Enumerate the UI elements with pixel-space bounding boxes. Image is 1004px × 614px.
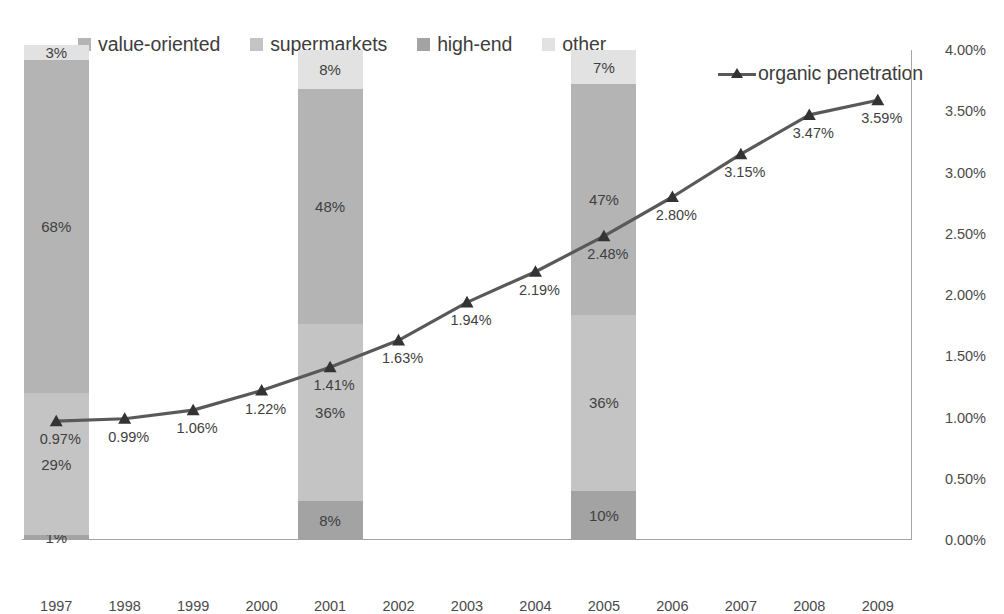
x-axis-tick-label: 1998 [109,598,141,614]
x-axis-tick-label: 2004 [519,598,551,614]
line-point-marker[interactable] [871,94,884,106]
line-point-label: 0.99% [108,429,149,445]
line-point-label: 3.15% [724,164,765,180]
x-axis-tick-label: 2003 [451,598,483,614]
line-point-marker[interactable] [734,148,747,160]
line-point-label: 1.94% [450,312,491,328]
y-axis-tick-label: 0.50% [945,471,986,487]
x-axis-tick-label: 2009 [862,598,894,614]
x-axis-tick-label: 2002 [382,598,414,614]
line-point-label: 1.22% [245,401,286,417]
line-point-label: 3.47% [793,125,834,141]
y-axis-tick-label: 0.00% [945,532,986,548]
x-axis-tick-label: 2005 [588,598,620,614]
line-point-label: 3.59% [861,110,902,126]
x-axis-tick-label: 1997 [40,598,72,614]
y-axis-tick-label: 3.00% [945,165,986,181]
line-point-label: 2.19% [519,282,560,298]
line-point-label: 0.97% [40,431,81,447]
y-axis-tick-label: 4.00% [945,42,986,58]
line-point-marker[interactable] [597,230,610,242]
line-series-organic-penetration [22,50,912,540]
line-point-label: 1.63% [382,350,423,366]
y-axis-tick-label: 3.50% [945,103,986,119]
x-axis-tick-label: 2007 [725,598,757,614]
line-point-label: 2.80% [656,207,697,223]
line-point-label: 1.41% [314,377,355,393]
line-point-marker[interactable] [666,191,679,203]
x-axis-tick-label: 1999 [177,598,209,614]
x-axis-tick-label: 2008 [793,598,825,614]
y-axis-tick-label: 2.50% [945,226,986,242]
plot-area: 0.00%0.50%1.00%1.50%2.00%2.50%3.00%3.50%… [22,50,912,540]
x-axis-tick-label: 2006 [656,598,688,614]
line-point-label: 2.48% [587,246,628,262]
x-axis-tick-label: 2001 [314,598,346,614]
y-axis-tick-label: 2.00% [945,287,986,303]
y-axis-tick-label: 1.00% [945,410,986,426]
y-axis-tick-label: 1.50% [945,348,986,364]
line-point-label: 1.06% [177,420,218,436]
line-path [56,100,878,421]
x-axis-tick-label: 2000 [245,598,277,614]
